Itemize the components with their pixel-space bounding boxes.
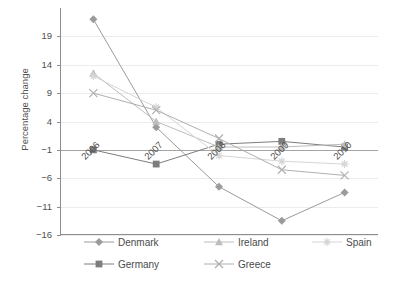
gridline: [61, 36, 378, 37]
y-tick-mark: [57, 122, 61, 123]
y-tick-label: 19: [12, 30, 52, 41]
triangle-marker-icon: [204, 235, 234, 249]
y-tick-mark: [57, 235, 61, 236]
legend-label: Spain: [346, 237, 372, 248]
cross-marker-icon: [204, 257, 234, 271]
y-tick-label: −1: [12, 144, 52, 155]
gridline: [61, 93, 378, 94]
y-tick-label: −11: [12, 201, 52, 212]
plot-area: 191494−1−6−11−16: [60, 8, 378, 235]
y-tick-label: 9: [12, 87, 52, 98]
y-tick-label: 4: [12, 116, 52, 127]
asterisk-marker-icon: [312, 235, 342, 249]
gridline: [61, 178, 378, 179]
legend-item-ireland[interactable]: Ireland: [204, 235, 269, 249]
gridline: [61, 122, 378, 123]
square-marker-icon: [84, 257, 114, 271]
y-tick-mark: [57, 36, 61, 37]
legend-label: Greece: [238, 259, 271, 270]
line-chart: Percentage change 191494−1−6−11−16 20062…: [0, 0, 399, 291]
diamond-marker-icon: [84, 235, 114, 249]
legend-item-spain[interactable]: Spain: [312, 235, 372, 249]
legend-label: Denmark: [118, 237, 159, 248]
y-tick-mark: [57, 65, 61, 66]
y-tick-mark: [57, 178, 61, 179]
legend-label: Germany: [118, 259, 159, 270]
y-tick-label: 14: [12, 59, 52, 70]
legend-item-germany[interactable]: Germany: [84, 257, 159, 271]
y-tick-label: −6: [12, 172, 52, 183]
gridline: [61, 65, 378, 66]
y-tick-mark: [57, 150, 61, 151]
legend-label: Ireland: [238, 237, 269, 248]
legend-item-denmark[interactable]: Denmark: [84, 235, 159, 249]
legend-item-greece[interactable]: Greece: [204, 257, 271, 271]
y-tick-mark: [57, 207, 61, 208]
y-tick-mark: [57, 93, 61, 94]
gridline: [61, 207, 378, 208]
y-tick-label: −16: [12, 229, 52, 240]
